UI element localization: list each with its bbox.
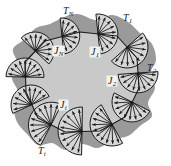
edge-label-t-1: T1 — [123, 13, 132, 23]
fan-label-j-i: Ji — [59, 100, 68, 110]
polygon-fan-diagram — [0, 0, 171, 166]
edge-label-t-2: T2 — [147, 63, 156, 73]
label-subscript: N — [69, 10, 74, 18]
label-base: T — [38, 145, 44, 156]
label-base: T — [63, 5, 69, 16]
label-subscript: 1 — [95, 51, 99, 59]
edge-label-t-n: TN — [63, 6, 74, 16]
fan-label-j-1: J1 — [90, 47, 100, 57]
label-subscript: N — [58, 50, 63, 58]
label-base: T — [123, 12, 129, 23]
label-base: T — [147, 62, 153, 73]
label-subscript: 1 — [129, 17, 133, 25]
fan-label-j-n: JN — [53, 46, 64, 56]
edge-label-t-i: Ti — [38, 146, 46, 156]
label-subscript: 2 — [153, 67, 157, 75]
label-subscript: 2 — [112, 80, 116, 88]
label-subscript: i — [44, 150, 46, 158]
figure-container: TNT1T2TiJNJ1J2Ji — [0, 0, 171, 166]
fan-label-j-2: J2 — [107, 76, 117, 86]
label-subscript: i — [64, 104, 66, 112]
